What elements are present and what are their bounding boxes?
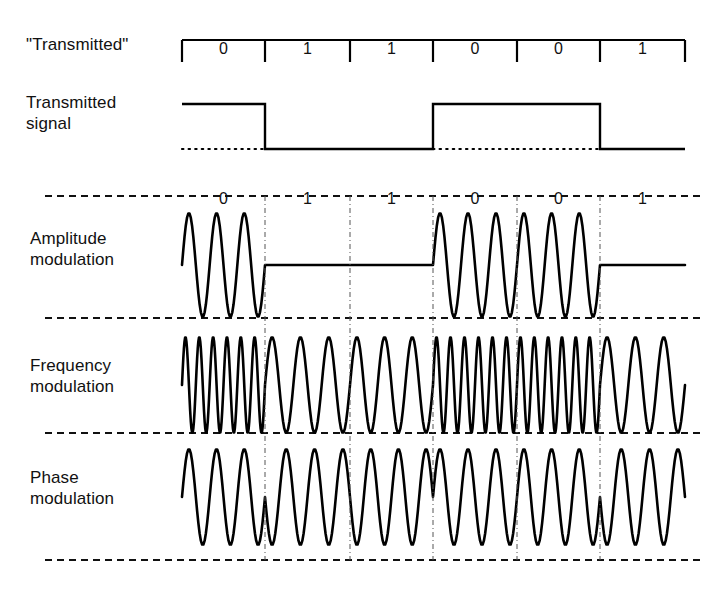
- bit-scale-value-0: 0: [219, 40, 228, 58]
- bit-scale-value-1: 1: [303, 40, 312, 58]
- modulation-bit-value-0: 0: [219, 190, 228, 208]
- transmitted-signal-waveform: [182, 104, 685, 149]
- bit-scale-value-3: 0: [471, 40, 480, 58]
- modulation-figure: "Transmitted" Transmitted signal Amplitu…: [0, 0, 719, 601]
- modulation-bit-value-5: 1: [638, 190, 647, 208]
- modulation-bit-value-3: 0: [471, 190, 480, 208]
- bit-scale-value-2: 1: [387, 40, 396, 58]
- bit-scale-value-4: 0: [554, 40, 563, 58]
- modulation-bit-value-2: 1: [387, 190, 396, 208]
- modulation-bit-value-1: 1: [303, 190, 312, 208]
- modulation-bit-value-4: 0: [554, 190, 563, 208]
- bit-scale-value-5: 1: [638, 40, 647, 58]
- waveform-canvas: [0, 0, 719, 601]
